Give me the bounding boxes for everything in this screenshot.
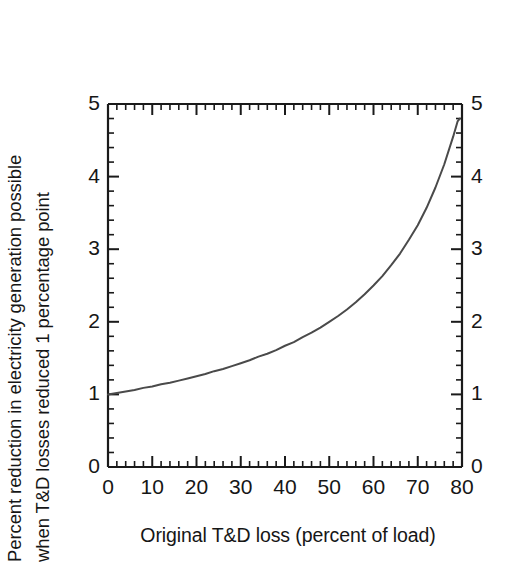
x-tick-label-2: 20 xyxy=(177,475,217,499)
y-tick-label-right-4: 4 xyxy=(471,164,497,188)
y-tick-label-right-2: 2 xyxy=(471,309,497,333)
y-tick-label-right-5: 5 xyxy=(471,91,497,115)
plot-area xyxy=(108,104,462,467)
y-tick-label-left-3: 3 xyxy=(74,236,100,260)
data-series-curve xyxy=(108,119,460,395)
x-tick-label-8: 80 xyxy=(442,475,482,499)
y-tick-label-right-3: 3 xyxy=(471,236,497,260)
y-tick-label-left-5: 5 xyxy=(74,91,100,115)
y-tick-label-right-1: 1 xyxy=(471,381,497,405)
x-tick-label-4: 40 xyxy=(265,475,305,499)
y-tick-label-left-1: 1 xyxy=(74,381,100,405)
y-tick-label-left-4: 4 xyxy=(74,164,100,188)
x-tick-label-7: 70 xyxy=(398,475,438,499)
y-axis-title-line-2: when T&D losses reduced 1 percentage poi… xyxy=(32,22,54,562)
x-tick-label-0: 0 xyxy=(88,475,128,499)
y-axis-title-line-1: Percent reduction in electricity generat… xyxy=(4,22,26,562)
x-tick-label-5: 50 xyxy=(309,475,349,499)
axes-frame xyxy=(108,104,462,467)
x-tick-label-6: 60 xyxy=(354,475,394,499)
plot-canvas xyxy=(108,104,462,467)
x-tick-label-3: 30 xyxy=(221,475,261,499)
x-tick-label-1: 10 xyxy=(132,475,172,499)
tick-marks xyxy=(108,104,462,467)
y-tick-label-left-2: 2 xyxy=(74,309,100,333)
figure: Percent reduction in electricity generat… xyxy=(0,0,519,587)
x-axis-title: Original T&D loss (percent of load) xyxy=(108,524,468,547)
